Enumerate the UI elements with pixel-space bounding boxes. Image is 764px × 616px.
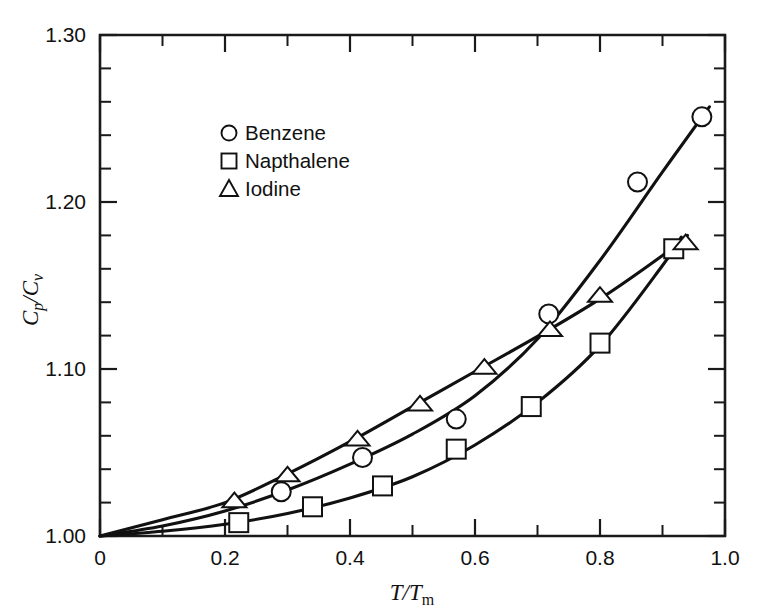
y-tick-label: 1.30 bbox=[45, 23, 86, 46]
legend-square-marker bbox=[222, 154, 237, 169]
data-point-napthalene-square-marker bbox=[229, 513, 248, 532]
y-axis-title-c: C bbox=[18, 310, 43, 326]
x-axis-title-sub-m: m bbox=[422, 591, 435, 608]
chart-legend: BenzeneNapthaleneIodine bbox=[220, 121, 350, 200]
data-point-benzene-circle-marker bbox=[539, 304, 558, 323]
y-axis-tick-labels: 1.001.101.201.30 bbox=[45, 23, 86, 547]
legend-circle-marker bbox=[222, 126, 237, 141]
y-axis-title-sub-p: p bbox=[29, 303, 47, 312]
data-point-benzene-circle-marker bbox=[353, 448, 372, 467]
data-point-benzene-circle-marker bbox=[692, 107, 711, 126]
data-point-benzene-circle-marker bbox=[447, 410, 466, 429]
data-point-benzene-circle-marker bbox=[628, 172, 647, 191]
x-tick-label: 0.2 bbox=[210, 546, 239, 569]
legend-label-benzene: Benzene bbox=[245, 121, 326, 144]
x-axis-ticks bbox=[100, 35, 725, 536]
chart-canvas: 1.001.101.201.30 00.20.40.60.81.0 Benzen… bbox=[0, 0, 764, 616]
svg-text:T/Tm: T/Tm bbox=[390, 580, 435, 608]
x-tick-label: 0.4 bbox=[335, 546, 365, 569]
y-axis-title-sub-v: v bbox=[29, 273, 46, 281]
legend-label-iodine: Iodine bbox=[245, 177, 301, 200]
y-tick-label: 1.10 bbox=[45, 357, 86, 380]
data-curves bbox=[100, 107, 709, 536]
x-tick-label: 0.6 bbox=[460, 546, 489, 569]
data-point-napthalene-square-marker bbox=[522, 397, 541, 416]
data-point-napthalene-square-marker bbox=[447, 440, 466, 459]
x-tick-label: 0.8 bbox=[585, 546, 614, 569]
y-tick-label: 1.20 bbox=[45, 190, 86, 213]
x-tick-label: 1.0 bbox=[710, 546, 739, 569]
y-axis-title: Cp/Cv bbox=[18, 273, 47, 326]
x-axis-title: T/Tm bbox=[390, 580, 435, 608]
legend-triangle-marker bbox=[220, 180, 238, 196]
data-point-benzene-circle-marker bbox=[272, 482, 291, 501]
legend-label-napthalene: Napthalene bbox=[245, 149, 350, 172]
y-axis-ticks bbox=[100, 35, 725, 536]
axis-frame bbox=[100, 35, 725, 536]
chart-figure: 1.001.101.201.30 00.20.40.60.81.0 Benzen… bbox=[0, 0, 764, 616]
data-point-napthalene-square-marker bbox=[591, 334, 610, 353]
curve-benzene bbox=[100, 107, 709, 536]
x-axis-tick-labels: 00.20.40.60.81.0 bbox=[94, 546, 739, 569]
curve-iodine bbox=[100, 235, 688, 536]
x-axis-title-slash: /T bbox=[401, 580, 424, 605]
svg-text:Cp/Cv: Cp/Cv bbox=[18, 273, 47, 326]
data-point-napthalene-square-marker bbox=[303, 497, 322, 516]
y-tick-label: 1.00 bbox=[45, 524, 86, 547]
x-tick-label: 0 bbox=[94, 546, 106, 569]
y-axis-title-slash: /C bbox=[18, 280, 43, 304]
data-point-napthalene-square-marker bbox=[373, 476, 392, 495]
